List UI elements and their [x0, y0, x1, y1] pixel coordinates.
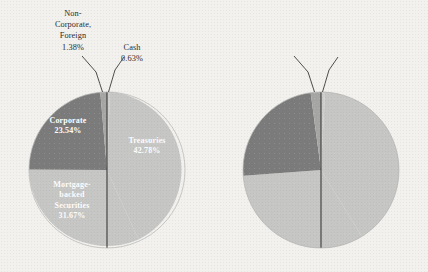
noncorp-leader-line	[82, 56, 103, 92]
slice-corporate	[243, 93, 321, 176]
left-pie-panel: Non- Corporate, Foreign 1.38% Cash 0.63%…	[0, 0, 214, 272]
noncorp-leader-line	[294, 56, 315, 92]
corporate-slice-label: Corporate 23.54%	[32, 116, 104, 137]
right-pie-graphic	[214, 0, 428, 272]
treasuries-slice-label: Treasuries 42.78%	[116, 136, 178, 157]
mortgage-backed-securities-slice-label: Mortgage- backed Securities 31.67%	[38, 180, 106, 222]
non-corporate-foreign-callout-label: Non- Corporate, Foreign 1.38%	[36, 8, 110, 53]
pie-chart-figure: Non- Corporate, Foreign 1.38% Cash 0.63%…	[0, 0, 428, 272]
cash-leader-line	[323, 57, 339, 92]
cash-callout-label: Cash 0.63%	[110, 42, 154, 64]
right-pie-panel: Non- Corporate, Foreign 2.12% Cash 0.83%…	[214, 0, 428, 272]
